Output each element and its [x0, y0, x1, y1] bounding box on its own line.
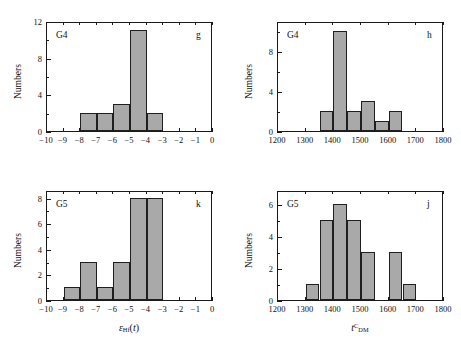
y-tick-label: 6 — [255, 201, 273, 210]
x-tick-label: 1200 — [269, 305, 286, 314]
bar — [389, 252, 403, 300]
y-tick — [277, 237, 282, 238]
bar — [306, 284, 320, 300]
x-tick-top — [388, 191, 389, 194]
cut-off-caption — [0, 341, 461, 346]
x-tick-top — [415, 191, 416, 194]
x-axis-title: tCDM — [351, 322, 368, 333]
x-tick-top — [360, 191, 361, 194]
x-tick-top — [277, 191, 278, 194]
x-tick-top — [305, 191, 306, 194]
bar — [320, 220, 334, 300]
x-tick-label: 1300 — [296, 305, 313, 314]
x-tick — [305, 297, 306, 301]
x-tick-top — [443, 191, 444, 194]
y-tick — [277, 301, 282, 302]
x-tick-label: 1600 — [379, 305, 396, 314]
y-minor-tick — [277, 221, 280, 222]
bar — [347, 220, 361, 300]
y-tick — [277, 269, 282, 270]
y-tick-label: 4 — [255, 233, 273, 242]
y-minor-tick — [277, 285, 280, 286]
histogram-figure: −10−9−8−7−6−5−4−3−2−1004812NumbersG4g120… — [0, 0, 461, 346]
x-tick — [443, 297, 444, 301]
plot-area-j — [277, 191, 443, 301]
bars-j — [278, 192, 442, 300]
y-tick-label: 2 — [255, 265, 273, 274]
x-tick-label: 1800 — [435, 305, 452, 314]
x-tick-top — [332, 191, 333, 194]
x-tick-label: 1700 — [407, 305, 424, 314]
x-tick-label: 1500 — [352, 305, 369, 314]
x-tick-label: 1400 — [324, 305, 341, 314]
x-tick — [415, 297, 416, 301]
y-minor-tick — [277, 253, 280, 254]
group-label: G5 — [287, 199, 299, 209]
y-tick-label: 0 — [255, 297, 273, 306]
x-tick — [388, 297, 389, 301]
bar — [361, 252, 375, 300]
panel-j: 12001300140015001600170018000246NumbersG… — [0, 0, 461, 346]
bar — [333, 204, 347, 300]
y-axis-title: Numbers — [244, 233, 254, 268]
bar — [403, 284, 417, 300]
x-tick — [332, 297, 333, 301]
y-tick — [277, 205, 282, 206]
panel-letter: j — [427, 199, 430, 209]
x-tick — [360, 297, 361, 301]
